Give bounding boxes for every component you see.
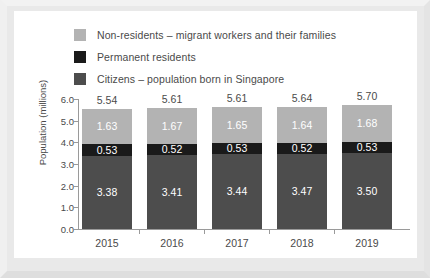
y-axis-tick-label: 1.0 bbox=[40, 202, 74, 213]
y-axis-tick-label: 6.0 bbox=[40, 94, 74, 105]
bar-segment-value-label: 3.38 bbox=[97, 187, 117, 198]
bar-segment-citizens[interactable]: 3.50 bbox=[342, 153, 392, 229]
bar-total-label: 5.61 bbox=[212, 92, 262, 104]
bar-segment-citizens[interactable]: 3.47 bbox=[277, 154, 327, 229]
bar-total-label: 5.61 bbox=[147, 93, 197, 105]
bar-group[interactable]: 1.680.533.505.70 bbox=[342, 105, 392, 229]
y-axis-tick-label: 2.0 bbox=[40, 180, 74, 191]
chart-card: Non-residents – migrant workers and thei… bbox=[14, 11, 417, 258]
bar-group[interactable]: 1.630.533.385.54 bbox=[82, 109, 132, 229]
bar-series-container: 1.630.533.385.5420151.670.523.415.612016… bbox=[82, 11, 412, 258]
x-axis-category-label: 2016 bbox=[147, 237, 197, 249]
bar-segment-value-label: 0.53 bbox=[97, 145, 117, 156]
x-axis-category-label: 2015 bbox=[82, 237, 132, 249]
bar-segment-permanent_residents[interactable]: 0.52 bbox=[147, 144, 197, 155]
bar-segment-value-label: 1.63 bbox=[97, 121, 117, 132]
y-axis-tick-mark bbox=[74, 186, 78, 187]
y-axis-tick-label: 4.0 bbox=[40, 137, 74, 148]
bar-segment-permanent_residents[interactable]: 0.53 bbox=[212, 143, 262, 154]
bar-segment-value-label: 0.53 bbox=[227, 143, 247, 154]
chart-plot-area: Population (millions) 6.05.04.03.02.01.0… bbox=[14, 11, 417, 258]
bar-group[interactable]: 1.650.533.445.61 bbox=[212, 107, 262, 229]
bar-group[interactable]: 1.670.523.415.61 bbox=[147, 108, 197, 229]
bar-segment-value-label: 3.50 bbox=[357, 186, 377, 197]
chart-screenshot: Non-residents – migrant workers and thei… bbox=[0, 0, 430, 278]
bar-segment-permanent_residents[interactable]: 0.53 bbox=[342, 142, 392, 153]
y-axis-tick-label: 5.0 bbox=[40, 115, 74, 126]
bar-total-label: 5.54 bbox=[82, 94, 132, 106]
bar-segment-permanent_residents[interactable]: 0.53 bbox=[82, 144, 132, 155]
bar-segment-value-label: 0.52 bbox=[292, 143, 312, 154]
bar-segment-value-label: 0.52 bbox=[162, 144, 182, 155]
x-axis-tick-mark bbox=[269, 230, 270, 234]
y-axis-tick-label: 0.0 bbox=[40, 224, 74, 235]
y-axis-tick-mark bbox=[74, 142, 78, 143]
bar-segment-citizens[interactable]: 3.41 bbox=[147, 155, 197, 229]
y-axis-line bbox=[78, 99, 79, 230]
bar-group[interactable]: 1.640.523.475.64 bbox=[277, 107, 327, 229]
x-axis-tick-mark bbox=[204, 230, 205, 234]
y-axis-tick-mark bbox=[74, 121, 78, 122]
x-axis-tick-mark bbox=[334, 230, 335, 234]
bar-segment-non_residents[interactable]: 1.65 bbox=[212, 107, 262, 143]
bar-segment-non_residents[interactable]: 1.68 bbox=[342, 105, 392, 141]
bar-segment-value-label: 3.41 bbox=[162, 187, 182, 198]
bar-segment-value-label: 0.53 bbox=[357, 142, 377, 153]
bar-segment-value-label: 1.67 bbox=[162, 121, 182, 132]
bar-segment-permanent_residents[interactable]: 0.52 bbox=[277, 143, 327, 154]
x-axis-category-label: 2019 bbox=[342, 237, 392, 249]
y-axis-tick-labels: 6.05.04.03.02.01.00.0 bbox=[32, 11, 74, 258]
bar-segment-value-label: 1.68 bbox=[357, 118, 377, 129]
bar-segment-value-label: 3.47 bbox=[292, 186, 312, 197]
y-axis-tick-mark bbox=[74, 207, 78, 208]
y-axis-tick-label: 3.0 bbox=[40, 159, 74, 170]
bar-segment-non_residents[interactable]: 1.67 bbox=[147, 108, 197, 144]
y-axis-tick-mark bbox=[74, 229, 78, 230]
bar-segment-citizens[interactable]: 3.44 bbox=[212, 154, 262, 229]
x-axis-tick-mark bbox=[139, 230, 140, 234]
y-axis-tick-mark bbox=[74, 164, 78, 165]
bar-total-label: 5.70 bbox=[342, 90, 392, 102]
bar-segment-citizens[interactable]: 3.38 bbox=[82, 156, 132, 229]
bar-total-label: 5.64 bbox=[277, 92, 327, 104]
x-axis-category-label: 2018 bbox=[277, 237, 327, 249]
bar-segment-value-label: 1.65 bbox=[227, 120, 247, 131]
bar-segment-non_residents[interactable]: 1.64 bbox=[277, 107, 327, 143]
y-axis-tick-mark bbox=[74, 99, 78, 100]
bar-segment-non_residents[interactable]: 1.63 bbox=[82, 109, 132, 144]
bar-segment-value-label: 1.64 bbox=[292, 120, 312, 131]
x-axis-category-label: 2017 bbox=[212, 237, 262, 249]
bar-segment-value-label: 3.44 bbox=[227, 186, 247, 197]
